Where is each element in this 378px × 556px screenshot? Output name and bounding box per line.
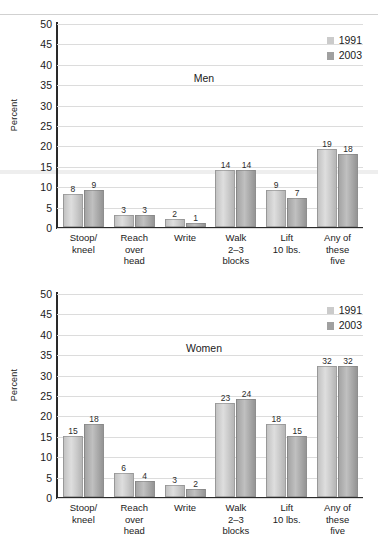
- category-label: Reach over head: [109, 502, 160, 537]
- bar-value-label: 3: [121, 205, 126, 215]
- bar-slot: 1: [186, 23, 206, 227]
- y-tick-label: 10: [40, 181, 52, 193]
- bar-group: 64: [109, 293, 160, 497]
- bar-2003[interactable]: 15: [287, 436, 307, 497]
- bar-value-label: 3: [142, 205, 147, 215]
- bar-2003[interactable]: 2: [186, 489, 206, 497]
- bar-group: 97: [261, 23, 312, 227]
- bar-slot: 19: [317, 23, 337, 227]
- bar-value-label: 1: [193, 213, 198, 223]
- bar-slot: 6: [114, 293, 134, 497]
- gridline: 0: [57, 228, 363, 229]
- bar-slot: 15: [63, 293, 83, 497]
- bar-group: 1518: [58, 293, 109, 497]
- bar-value-label: 14: [242, 160, 251, 170]
- bar-group: 3232: [312, 293, 363, 497]
- bar-value-label: 32: [322, 356, 331, 366]
- category-labels-women: Stoop/ kneelReach over headWriteWalk 2–3…: [58, 502, 363, 537]
- bar-1991[interactable]: 18: [266, 424, 286, 497]
- y-tick-label: 25: [40, 390, 52, 402]
- category-label: Walk 2–3 blocks: [210, 232, 261, 267]
- bar-group: 32: [160, 293, 211, 497]
- category-labels-men: Stoop/ kneelReach over headWriteWalk 2–3…: [58, 232, 363, 267]
- bar-2003[interactable]: 24: [236, 399, 256, 497]
- bar-value-label: 6: [121, 463, 126, 473]
- bar-2003[interactable]: 1: [186, 223, 206, 227]
- gridline: 0: [57, 498, 363, 499]
- bar-2003[interactable]: 7: [287, 198, 307, 227]
- bar-slot: 9: [266, 23, 286, 227]
- bar-value-label: 9: [92, 180, 97, 190]
- y-tick-label: 40: [40, 329, 52, 341]
- bar-value-label: 2: [193, 479, 198, 489]
- bar-2003[interactable]: 18: [338, 154, 358, 227]
- y-tick-label: 50: [40, 18, 52, 30]
- bar-group: 1414: [210, 23, 261, 227]
- bar-1991[interactable]: 8: [63, 194, 83, 227]
- bar-1991[interactable]: 6: [114, 473, 134, 497]
- y-tick-label: 45: [40, 38, 52, 50]
- bar-slot: 32: [338, 293, 358, 497]
- bar-1991[interactable]: 14: [215, 170, 235, 227]
- bar-value-label: 3: [172, 475, 177, 485]
- y-tick-label: 35: [40, 349, 52, 361]
- bar-slot: 14: [215, 23, 235, 227]
- y-axis-label-men: Percent: [9, 85, 19, 145]
- y-tick-label: 25: [40, 120, 52, 132]
- y-tick-label: 5: [46, 202, 52, 214]
- bar-slot: 7: [287, 23, 307, 227]
- bar-group: 21: [160, 23, 211, 227]
- bar-value-label: 9: [274, 180, 279, 190]
- bar-value-label: 15: [68, 426, 77, 436]
- bar-group: 1815: [261, 293, 312, 497]
- category-label: Stoop/ kneel: [58, 232, 109, 267]
- bar-slot: 9: [84, 23, 104, 227]
- y-tick-label: 20: [40, 410, 52, 422]
- bar-slot: 18: [338, 23, 358, 227]
- bar-slot: 18: [84, 293, 104, 497]
- plot-area-men: 05101520253035404550 8933211414971918: [56, 24, 363, 228]
- category-label: Lift 10 lbs.: [261, 232, 312, 267]
- y-axis-label-women: Percent: [9, 355, 19, 415]
- bar-2003[interactable]: 32: [338, 366, 358, 497]
- bar-value-label: 18: [271, 414, 280, 424]
- bar-1991[interactable]: 19: [317, 149, 337, 227]
- bar-1991[interactable]: 2: [165, 219, 185, 227]
- bar-1991[interactable]: 15: [63, 436, 83, 497]
- bar-2003[interactable]: 4: [135, 481, 155, 497]
- bar-value-label: 23: [221, 393, 230, 403]
- bar-slot: 3: [165, 293, 185, 497]
- page-top-rule: [0, 14, 378, 15]
- bar-1991[interactable]: 23: [215, 403, 235, 497]
- y-tick-label: 15: [40, 431, 52, 443]
- bar-2003[interactable]: 9: [84, 190, 104, 227]
- bar-value-label: 24: [242, 389, 251, 399]
- bar-2003[interactable]: 18: [84, 424, 104, 497]
- bar-1991[interactable]: 3: [114, 215, 134, 227]
- bar-slot: 3: [114, 23, 134, 227]
- bar-value-label: 32: [343, 356, 352, 366]
- bar-slot: 18: [266, 293, 286, 497]
- y-tick-label: 0: [46, 492, 52, 504]
- bar-group: 33: [109, 23, 160, 227]
- y-tick-label: 15: [40, 161, 52, 173]
- category-label: Write: [160, 502, 211, 537]
- bar-slot: 15: [287, 293, 307, 497]
- bar-1991[interactable]: 9: [266, 190, 286, 227]
- bar-2003[interactable]: 3: [135, 215, 155, 227]
- category-label: Write: [160, 232, 211, 267]
- y-tick-label: 45: [40, 308, 52, 320]
- bar-2003[interactable]: 14: [236, 170, 256, 227]
- bar-1991[interactable]: 32: [317, 366, 337, 497]
- category-label: Stoop/ kneel: [58, 502, 109, 537]
- bar-slot: 23: [215, 293, 235, 497]
- y-tick-label: 30: [40, 370, 52, 382]
- bar-value-label: 19: [322, 139, 331, 149]
- bar-value-label: 8: [71, 184, 76, 194]
- bar-1991[interactable]: 3: [165, 485, 185, 497]
- bar-slot: 4: [135, 293, 155, 497]
- bar-value-label: 2: [172, 209, 177, 219]
- y-tick-label: 35: [40, 79, 52, 91]
- y-tick-label: 10: [40, 451, 52, 463]
- chart-panel-men: Percent Men 1991 2003 051015202530354045…: [0, 18, 378, 280]
